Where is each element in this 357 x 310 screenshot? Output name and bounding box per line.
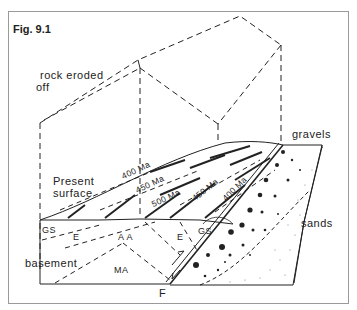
label-present: Present <box>53 176 94 187</box>
label-gravels: gravels <box>292 129 331 140</box>
label-gs-left: GS <box>42 226 56 235</box>
label-ma: MA <box>114 266 129 275</box>
fault-line <box>170 145 283 284</box>
label-e-right: E <box>177 233 184 242</box>
label-sands: sands <box>301 218 333 229</box>
apex-tick <box>138 60 140 68</box>
label-e-left: E <box>73 233 80 242</box>
label-rock-eroded: rock eroded <box>40 70 104 81</box>
figure-title: Fig. 9.1 <box>13 24 51 35</box>
label-surface: surface <box>53 188 93 199</box>
label-basement: basement <box>25 258 77 269</box>
label-off: off <box>36 82 50 93</box>
label-aa: A A <box>118 233 133 242</box>
label-fault: F <box>159 288 166 299</box>
label-gs-right: GS <box>198 227 212 236</box>
